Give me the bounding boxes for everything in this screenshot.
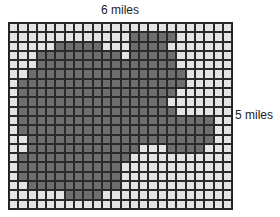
grid-cell: [111, 190, 120, 199]
grid-cell-filled: [37, 69, 46, 78]
grid-cell-filled: [167, 88, 176, 97]
grid-cell-filled: [111, 172, 120, 181]
grid-cell: [121, 181, 130, 190]
grid-cell-filled: [46, 144, 55, 153]
grid-cell-filled: [121, 97, 130, 106]
grid-cell: [139, 144, 148, 153]
grid-cell-filled: [93, 79, 102, 88]
grid-cell: [204, 190, 213, 199]
grid-cell-filled: [28, 116, 37, 125]
grid-cell: [37, 190, 46, 199]
grid-cell-filled: [93, 153, 102, 162]
grid-cell-filled: [176, 116, 185, 125]
grid-cell: [223, 172, 232, 181]
grid-cell-filled: [55, 162, 64, 171]
grid-cell-filled: [121, 125, 130, 134]
grid-cell-filled: [111, 135, 120, 144]
grid-cell: [176, 97, 185, 106]
grid-cell-filled: [204, 135, 213, 144]
grid-cell-filled: [65, 51, 74, 60]
grid-cell: [214, 162, 223, 171]
grid-cell: [195, 200, 204, 209]
grid-cell-filled: [139, 107, 148, 116]
grid-cell: [214, 79, 223, 88]
grid-cell: [223, 116, 232, 125]
grid-cell: [214, 32, 223, 41]
grid-cell-filled: [28, 69, 37, 78]
grid-cell-filled: [139, 51, 148, 60]
grid-cell-filled: [176, 79, 185, 88]
grid-cell-filled: [46, 69, 55, 78]
grid-cell-filled: [55, 125, 64, 134]
grid-cell: [18, 32, 27, 41]
grid-cell-filled: [195, 135, 204, 144]
grid-cell: [167, 190, 176, 199]
grid-cell: [158, 200, 167, 209]
grid-cell-filled: [55, 60, 64, 69]
grid-cell: [148, 144, 157, 153]
grid-cell-filled: [55, 42, 64, 51]
grid-cell-filled: [102, 79, 111, 88]
grid-cell-filled: [130, 135, 139, 144]
grid-cell: [74, 32, 83, 41]
grid-cell-filled: [176, 69, 185, 78]
grid-cell-filled: [102, 60, 111, 69]
grid-cell-filled: [83, 79, 92, 88]
grid-cell-filled: [130, 32, 139, 41]
grid-cell: [9, 88, 18, 97]
grid-cell-filled: [18, 97, 27, 106]
grid-cell: [176, 23, 185, 32]
grid-cell-filled: [102, 69, 111, 78]
grid-cell: [139, 23, 148, 32]
grid-cell: [204, 23, 213, 32]
grid-cell: [18, 144, 27, 153]
grid-cell: [102, 190, 111, 199]
grid-cell-filled: [158, 116, 167, 125]
grid-cell-filled: [83, 97, 92, 106]
grid-cell-filled: [167, 107, 176, 116]
grid-cell: [223, 144, 232, 153]
grid-cell: [18, 69, 27, 78]
grid-cell-filled: [83, 181, 92, 190]
grid-cell: [18, 190, 27, 199]
grid-cell: [9, 190, 18, 199]
grid-cell: [195, 97, 204, 106]
width-label: 6 miles: [0, 3, 240, 17]
grid-cell-filled: [148, 97, 157, 106]
grid-cell: [93, 32, 102, 41]
grid-cell-filled: [148, 88, 157, 97]
grid-cell: [158, 162, 167, 171]
grid-cell: [121, 23, 130, 32]
grid-cell: [186, 172, 195, 181]
grid-cell-filled: [102, 153, 111, 162]
grid-cell-filled: [130, 125, 139, 134]
grid-cell: [121, 200, 130, 209]
grid-cell-filled: [55, 172, 64, 181]
grid-cell-filled: [55, 79, 64, 88]
grid-cell: [223, 125, 232, 134]
grid-cell-filled: [65, 60, 74, 69]
grid-cell: [214, 51, 223, 60]
grid-cell: [223, 135, 232, 144]
grid-cell-filled: [121, 79, 130, 88]
grid-cell: [204, 88, 213, 97]
grid-cell: [9, 69, 18, 78]
grid-cell: [18, 42, 27, 51]
grid-cell-filled: [167, 135, 176, 144]
grid-cell-filled: [130, 107, 139, 116]
grid-cell-filled: [46, 153, 55, 162]
grid-cell-filled: [83, 116, 92, 125]
grid-cell-filled: [83, 153, 92, 162]
grid-cell-filled: [28, 125, 37, 134]
grid-cell-filled: [65, 107, 74, 116]
grid-cell-filled: [148, 32, 157, 41]
grid-cell-filled: [65, 162, 74, 171]
grid-cell-filled: [93, 172, 102, 181]
grid-cell: [186, 162, 195, 171]
grid-cell: [204, 162, 213, 171]
grid-cell-filled: [111, 88, 120, 97]
grid-cell-filled: [139, 125, 148, 134]
grid-cell: [28, 200, 37, 209]
grid-cell: [176, 162, 185, 171]
grid-cell: [9, 42, 18, 51]
